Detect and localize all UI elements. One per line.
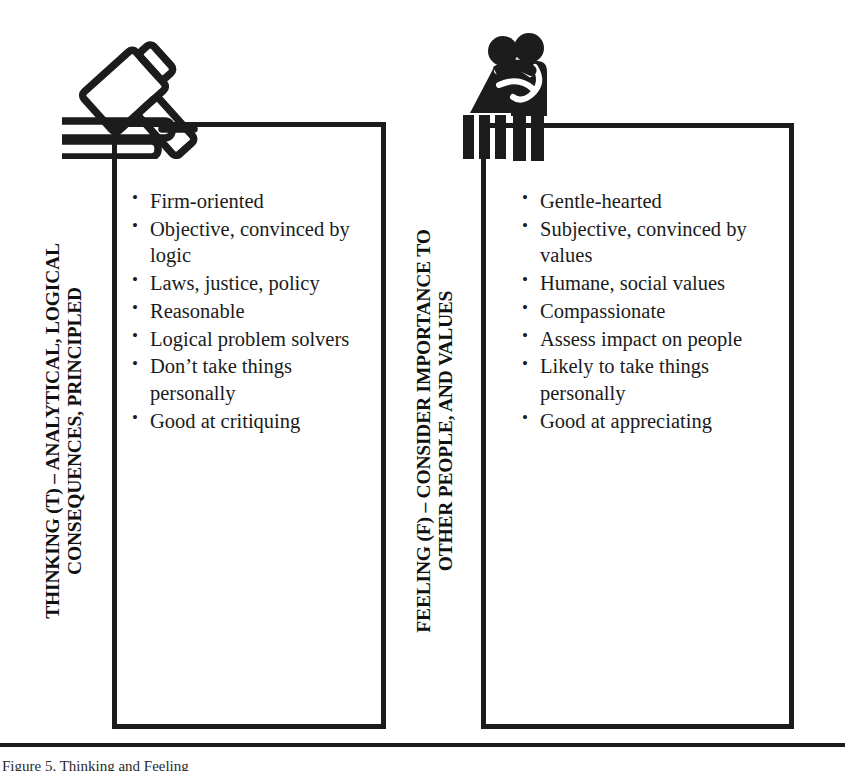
list-item: Logical problem solvers: [131, 326, 379, 353]
list-item: Humane, social values: [521, 270, 787, 297]
panel-feeling-label-line-2: OTHER PEOPLE, AND VALUES: [435, 151, 457, 711]
list-item: Good at critiquing: [131, 408, 379, 435]
panel-feeling-bullet-list: Gentle-hearted Subjective, convinced by …: [521, 188, 787, 435]
list-item: Compassionate: [521, 298, 787, 325]
list-item: Gentle-hearted: [521, 188, 787, 215]
list-item: Objective, convinced by logic: [131, 216, 379, 269]
list-item: Reasonable: [131, 298, 379, 325]
list-item: Firm-oriented: [131, 188, 379, 215]
bottom-caption-clipped: Figure 5. Thinking and Feeling: [2, 757, 843, 771]
panel-thinking-label-line-2: CONSEQUENCES, PRINCIPLED: [64, 151, 86, 711]
list-item: Assess impact on people: [521, 326, 787, 353]
panel-feeling-vertical-label: FEELING (F) – CONSIDER IMPORTANCE TO OTH…: [413, 151, 465, 711]
gavel-icon: [62, 33, 204, 159]
list-item: Don’t take things personally: [131, 353, 379, 406]
list-item: Likely to take things personally: [521, 353, 787, 406]
panel-feeling-label-line-1: FEELING (F) – CONSIDER IMPORTANCE TO: [413, 151, 435, 711]
diagram-canvas: THINKING (T) – ANALYTICAL, LOGICAL CONSE…: [0, 0, 845, 771]
list-item: Good at appreciating: [521, 408, 787, 435]
bottom-divider-rule: [0, 743, 845, 747]
panel-thinking-bullet-list: Firm-oriented Objective, convinced by lo…: [131, 188, 379, 435]
list-item: Subjective, convinced by values: [521, 216, 787, 269]
embracing-couple-icon: [463, 27, 575, 164]
panel-thinking-label-line-1: THINKING (T) – ANALYTICAL, LOGICAL: [42, 151, 64, 711]
list-item: Laws, justice, policy: [131, 270, 379, 297]
panel-thinking-vertical-label: THINKING (T) – ANALYTICAL, LOGICAL CONSE…: [42, 151, 94, 711]
